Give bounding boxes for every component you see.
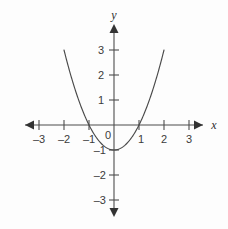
y-tick-label-3: 3 [98, 44, 104, 56]
x-axis-left-arrow-icon [25, 121, 34, 130]
y-tick-label-2: 2 [98, 69, 104, 81]
y-tick-label-1: 1 [98, 94, 104, 106]
parabola-graph-figure: –3 –2 –1 1 2 3 3 2 1 –1 –2 –3 0 x y [0, 0, 228, 229]
x-tick-label-2: 2 [161, 133, 167, 145]
x-tick-label-neg3: –3 [33, 133, 45, 145]
coordinate-plane-svg: –3 –2 –1 1 2 3 3 2 1 –1 –2 –3 0 x y [0, 0, 228, 229]
x-tick-label-neg2: –2 [58, 133, 70, 145]
y-axis-down-arrow-icon [110, 208, 119, 217]
origin-label: 0 [105, 129, 111, 141]
x-axis-label: x [210, 118, 217, 132]
x-tick-label-1: 1 [138, 133, 144, 145]
y-tick-label-neg3: –3 [94, 194, 106, 206]
y-axis-label: y [110, 8, 117, 22]
x-axis-right-arrow-icon [194, 121, 203, 130]
x-tick-label-3: 3 [186, 133, 192, 145]
y-axis-up-arrow-icon [110, 24, 119, 33]
y-tick-label-neg2: –2 [94, 169, 106, 181]
